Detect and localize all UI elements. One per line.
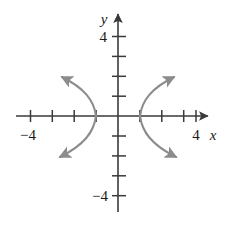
coordinate-plane-svg: y 4 −4 −4 4 x xyxy=(0,0,225,225)
y-axis-min-tick-label: −4 xyxy=(92,188,108,204)
left-parabola-branch xyxy=(60,77,96,157)
x-axis-max-tick-label: 4 xyxy=(192,127,200,143)
right-branch-lower-curve xyxy=(140,116,176,157)
left-branch-lower-curve xyxy=(60,116,96,157)
y-axis-max-tick-label: 4 xyxy=(100,29,108,45)
left-branch-upper-curve xyxy=(62,77,96,116)
right-branch-upper-curve xyxy=(140,77,174,116)
x-axis-min-tick-label: −4 xyxy=(20,127,36,143)
x-axis-label: x xyxy=(209,127,217,143)
right-parabola-branch xyxy=(140,77,176,157)
axes-group xyxy=(16,14,208,212)
graph-figure: y 4 −4 −4 4 x xyxy=(0,0,225,225)
y-axis-label: y xyxy=(99,11,108,27)
